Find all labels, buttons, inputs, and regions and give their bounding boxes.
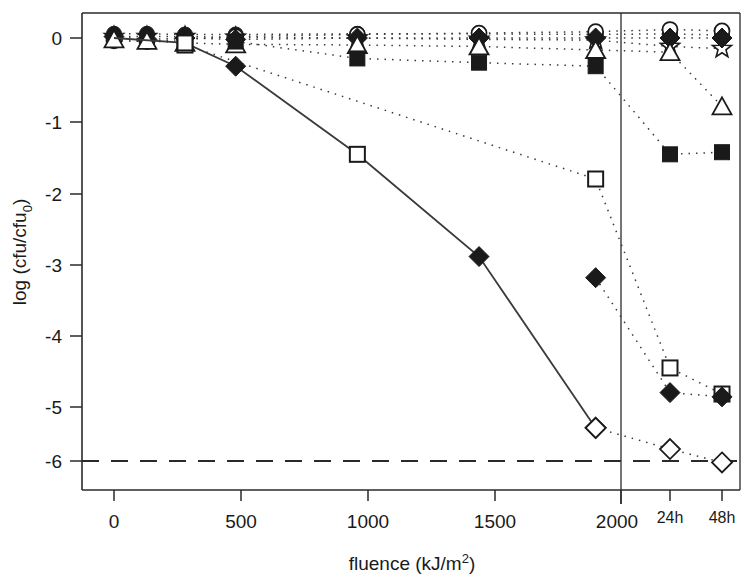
data-point-square-filled: [663, 147, 678, 162]
y-axis-title-subscript: 0: [20, 205, 35, 212]
data-point-square-filled: [588, 59, 603, 74]
x-tick-label: 0: [109, 511, 120, 532]
x-axis-tick-labels: 0 500 1000 1500 2000 24h 48h: [109, 509, 736, 532]
log-reduction-vs-fluence-chart: 0 -1 -2 -3 -4 -5 -6 0 500 1000 1500 2000…: [0, 0, 742, 578]
plot-data-layer: [104, 22, 732, 472]
x-axis-title-tail: ): [469, 553, 475, 574]
figure-container: 0 -1 -2 -3 -4 -5 -6 0 500 1000 1500 2000…: [0, 0, 742, 578]
series-line-open-triangle: [114, 39, 722, 106]
series-filled-diamond-upper: [104, 27, 732, 50]
series-solid-line-series: [114, 35, 606, 437]
data-point-square-filled: [350, 51, 365, 66]
series-line-filled-circle: [114, 34, 722, 35]
y-tick-label: -4: [45, 326, 62, 347]
y-tick-label: 0: [51, 28, 62, 49]
x-tick-label: 500: [225, 511, 257, 532]
data-point-diamond-filled: [586, 268, 606, 288]
series-line-open-circle: [114, 30, 722, 42]
y-tick-label: -3: [45, 255, 62, 276]
y-axis-title: log (cfu/cfu0): [9, 199, 35, 306]
data-point-diamond-filled: [469, 247, 489, 267]
x-axis-ticks: [114, 490, 722, 504]
data-point-diamond-open: [660, 439, 680, 459]
series-filled-diamond-lower: [586, 268, 732, 407]
x-axis-title-main: fluence (kJ/m: [349, 553, 462, 574]
data-point-square-filled: [715, 145, 730, 160]
data-point-square-open: [350, 147, 365, 162]
data-point-square-open: [588, 172, 603, 187]
x-tick-label: 2000: [596, 511, 638, 532]
series-open-circle: [107, 22, 730, 49]
x-tick-label-24h: 24h: [657, 509, 684, 526]
series-line-filled-diamond-lower: [596, 278, 722, 397]
x-axis-title-exponent: 2: [462, 551, 469, 566]
data-point-square-open: [663, 360, 678, 375]
data-point-square-open: [177, 35, 192, 50]
svg-text:log (cfu/cfu0): log (cfu/cfu0): [9, 199, 35, 306]
y-tick-label: -6: [45, 451, 62, 472]
y-tick-label: -2: [45, 184, 62, 205]
y-tick-label: -1: [45, 112, 62, 133]
series-line-solid-line-series: [114, 38, 596, 428]
data-point-square-filled: [472, 55, 487, 70]
series-line-open-diamond: [596, 428, 722, 463]
y-axis-title-tail: ): [9, 199, 30, 205]
y-axis-ticks: [70, 38, 82, 461]
series-open-square: [177, 38, 729, 402]
x-axis-title: fluence (kJ/m2): [349, 551, 476, 574]
series-filled-circle: [107, 26, 730, 42]
y-tick-label: -5: [45, 397, 62, 418]
data-point-square-filled: [228, 34, 243, 49]
series-open-star: [104, 27, 731, 57]
series-line-open-square: [185, 45, 722, 394]
x-tick-label-48h: 48h: [709, 509, 736, 526]
series-open-triangle: [105, 30, 732, 114]
axis-frame: [82, 13, 740, 490]
data-point-diamond-open: [712, 452, 732, 472]
series-open-diamond: [586, 418, 732, 473]
data-point-triangle-open: [713, 97, 732, 114]
x-tick-label: 1500: [474, 511, 516, 532]
y-axis-tick-labels: 0 -1 -2 -3 -4 -5 -6: [45, 28, 62, 472]
data-point-diamond-open: [586, 418, 606, 438]
y-axis-title-main: log (cfu/cfu: [9, 212, 30, 305]
x-tick-label: 1000: [347, 511, 389, 532]
svg-text:fluence (kJ/m2): fluence (kJ/m2): [349, 551, 476, 574]
data-point-diamond-filled: [660, 383, 680, 403]
